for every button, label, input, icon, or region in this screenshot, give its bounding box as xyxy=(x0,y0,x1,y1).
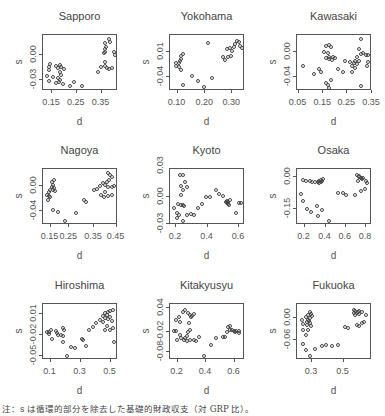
data-point xyxy=(113,53,117,57)
data-point xyxy=(187,321,191,325)
data-point xyxy=(183,180,187,184)
y-tick-mark xyxy=(166,331,169,332)
data-point xyxy=(301,64,305,68)
plot-area-yokohama xyxy=(169,34,244,90)
y-tick-mark xyxy=(166,351,169,352)
data-point xyxy=(190,74,194,78)
chart-title-hiroshima: Hiroshima xyxy=(22,279,137,291)
x-tick-label: 0.2 xyxy=(297,231,310,241)
x-axis-label: d xyxy=(77,116,83,127)
data-point xyxy=(343,59,347,63)
data-point xyxy=(327,86,331,90)
data-point xyxy=(308,354,312,358)
data-point xyxy=(356,179,360,183)
y-axis-label: s xyxy=(13,194,24,199)
data-point xyxy=(306,328,310,332)
y-tick-mark xyxy=(293,208,296,209)
data-point xyxy=(239,201,243,205)
y-tick-mark xyxy=(39,210,42,211)
data-point xyxy=(309,210,313,214)
data-point xyxy=(324,343,328,347)
data-point xyxy=(74,211,78,215)
plot-area-kitakyusyu xyxy=(169,303,244,359)
y-tick-mark xyxy=(39,355,42,356)
x-tick-mark xyxy=(110,359,111,362)
x-tick-label: 0.5 xyxy=(336,366,349,376)
data-point xyxy=(45,330,49,334)
data-point xyxy=(312,72,316,76)
y-tick-mark xyxy=(293,51,296,52)
chart-title-kawasaki: Kawasaki xyxy=(276,10,385,22)
x-axis-label: d xyxy=(204,116,210,127)
y-tick-label: -0.04 xyxy=(282,66,292,87)
data-point xyxy=(84,200,88,204)
data-point xyxy=(336,343,340,347)
plot-area-osaka xyxy=(296,168,371,224)
data-point xyxy=(304,333,308,337)
y-tick-label: 0.00 xyxy=(282,308,292,326)
data-point xyxy=(87,328,91,332)
data-point xyxy=(62,67,66,71)
x-tick-mark xyxy=(325,224,326,227)
data-point xyxy=(111,326,115,330)
data-point xyxy=(72,80,76,84)
x-tick-mark xyxy=(345,224,346,227)
chart-title-kitakyusyu: Kitakyusyu xyxy=(149,279,264,291)
y-tick-label: 0.04 xyxy=(155,299,165,317)
y-tick-label: -0.02 xyxy=(28,324,38,345)
x-tick-mark xyxy=(231,90,232,93)
chart-title-osaka: Osaka xyxy=(276,144,385,156)
x-tick-mark xyxy=(175,224,176,227)
y-tick-label: 0.03 xyxy=(155,156,165,174)
data-point xyxy=(227,203,231,207)
data-point xyxy=(80,84,84,88)
x-tick-label: 0.15 xyxy=(313,97,331,107)
x-axis-label: d xyxy=(77,250,83,261)
data-point xyxy=(206,41,210,45)
data-point xyxy=(208,195,212,199)
data-point xyxy=(181,52,185,56)
x-tick-mark xyxy=(68,224,69,227)
data-point xyxy=(362,320,366,324)
data-point xyxy=(91,325,95,329)
y-tick-label: -0.03 xyxy=(155,213,165,234)
data-point xyxy=(96,70,100,74)
data-point xyxy=(99,65,103,69)
data-point xyxy=(61,82,65,86)
data-point xyxy=(353,313,357,317)
x-tick-mark xyxy=(371,90,372,93)
data-point xyxy=(365,181,369,185)
y-tick-label: -0.08 xyxy=(155,340,165,361)
x-tick-label: 0.15 xyxy=(42,97,60,107)
x-tick-mark xyxy=(298,90,299,93)
data-point xyxy=(50,337,54,341)
data-point xyxy=(336,67,340,71)
y-axis-label: s xyxy=(13,329,24,334)
data-point xyxy=(192,213,196,217)
y-tick-label: 0.00 xyxy=(28,176,38,194)
x-axis-label: d xyxy=(77,385,83,396)
data-point xyxy=(353,193,357,197)
data-point xyxy=(330,344,334,348)
x-tick-mark xyxy=(205,359,206,362)
data-point xyxy=(240,46,244,50)
data-point xyxy=(48,62,52,66)
data-point xyxy=(237,331,241,335)
x-tick-label: 0.3 xyxy=(305,366,318,376)
y-tick-mark xyxy=(39,54,42,55)
data-point xyxy=(319,70,323,74)
y-tick-mark xyxy=(166,223,169,224)
data-point xyxy=(214,336,218,340)
y-tick-label: 0.00 xyxy=(155,187,165,205)
data-point xyxy=(221,194,225,198)
y-tick-mark xyxy=(293,176,296,177)
plot-area-nagoya xyxy=(42,168,117,224)
data-point xyxy=(346,326,350,330)
y-tick-mark xyxy=(39,334,42,335)
plot-area-kyoto xyxy=(169,168,244,224)
x-tick-label: 0.45 xyxy=(107,231,125,241)
data-point xyxy=(185,185,189,189)
x-tick-label: 0.25 xyxy=(337,97,355,107)
data-point xyxy=(315,204,319,208)
x-tick-mark xyxy=(116,224,117,227)
